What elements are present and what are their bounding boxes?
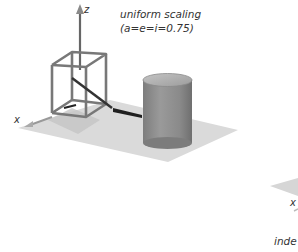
figure-canvas xyxy=(0,0,298,252)
z-axis xyxy=(76,4,84,70)
caption-line1: uniform scaling xyxy=(120,8,201,21)
z-axis-label: z xyxy=(84,4,89,15)
cylinder xyxy=(143,74,192,150)
x-axis-label: x xyxy=(14,114,20,125)
caption-line2: (a=e=i=0.75) xyxy=(120,22,194,35)
right-x-axis-label: x xyxy=(290,197,296,208)
scaling-figure: z x uniform scaling (a=e=i=0.75) x inde xyxy=(0,0,298,252)
right-x-axis xyxy=(294,209,298,211)
right-caption-partial: inde xyxy=(274,235,297,248)
right-ground-plane xyxy=(270,178,298,196)
